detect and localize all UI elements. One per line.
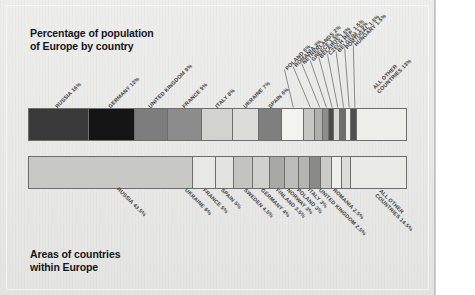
- top-label-france: FRANCE 9%: [181, 81, 209, 109]
- bottom-label-russia: RUSSIA 43.5%: [116, 186, 148, 218]
- top-label-russia: RUSSIA 16%: [54, 81, 82, 109]
- top-label-all-other-countries: ALL OTHER COUNTRIES 13%: [371, 53, 413, 95]
- top-label-spain: SPAIN 6%: [266, 86, 289, 109]
- bottom-label-sweden: SWEDEN 4.5%: [243, 187, 275, 219]
- bottom-label-all-other-countries: ALL OTHER COUNTRIES 14.5%: [373, 188, 418, 233]
- infographic-poster: Percentage of population of Europe by co…: [0, 0, 475, 295]
- label-layer: RUSSIA 16%GERMANY 12%UNITED KINGDOM 9%FR…: [0, 0, 475, 295]
- page-margin: [436, 0, 475, 295]
- top-label-italy: ITALY 8%: [213, 87, 235, 109]
- top-label-germany: GERMANY 12%: [107, 76, 141, 110]
